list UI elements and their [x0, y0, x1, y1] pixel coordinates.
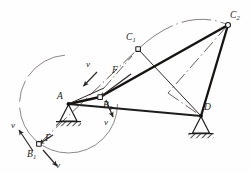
joint-marker-b1: [37, 142, 42, 147]
velocity-arrow-top: [84, 72, 98, 86]
joint-marker-b2: [98, 95, 103, 100]
joint-marker-d: [199, 114, 203, 118]
figure-canvas: [0, 0, 251, 173]
label-point-c2: C2: [230, 11, 240, 21]
label-point-b1: B1: [27, 150, 36, 160]
joint-marker-c2: [226, 23, 231, 28]
link-frame-ad: [69, 104, 202, 116]
label-velocity-bottom: v: [56, 161, 60, 170]
velocity-arrow-left: [19, 130, 33, 151]
label-point-a: A: [57, 92, 63, 102]
label-point-d: D: [204, 103, 211, 113]
label-velocity-left: v: [11, 121, 15, 130]
joint-marker-c1: [136, 47, 141, 52]
link-crank-ab2: [69, 97, 101, 104]
label-force-upper: F: [112, 66, 118, 76]
label-velocity-top: v: [86, 60, 90, 69]
ground-hatch-d: [189, 134, 214, 138]
force-arrow-b2: [100, 74, 131, 97]
label-velocity-mid: v: [104, 118, 108, 127]
pin-support-triangle-a: [60, 105, 77, 122]
label-force-lower: F: [45, 134, 51, 144]
label-point-b2: B2: [103, 101, 112, 111]
label-point-c1: C1: [126, 33, 136, 43]
pin-support-triangle-d: [193, 117, 210, 134]
kinematics-figure: A B1 B2 C1 C2 D F F v v v v: [0, 0, 251, 173]
coupler-point-arc: [137, 19, 229, 50]
velocity-arrow-bottom: [43, 150, 57, 166]
ground-hatch-a: [56, 122, 81, 126]
joint-marker-a: [67, 102, 71, 106]
